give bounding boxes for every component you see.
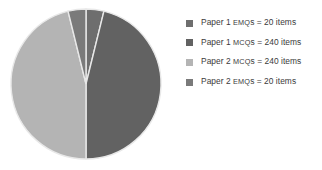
legend-label-suffix: s = 240 items: [251, 37, 302, 47]
legend-label-prefix: Paper 1: [201, 17, 233, 27]
legend-swatch-paper-1-mcqs: [186, 39, 193, 46]
chart-legend: Paper 1 EMQs = 20 items Paper 1 MCQs = 2…: [186, 13, 322, 91]
legend-item-paper-2-emqs[interactable]: Paper 2 EMQs = 20 items: [186, 72, 322, 92]
legend-label-acronym: EMQ: [233, 77, 250, 86]
legend-label-suffix: s = 20 items: [250, 76, 296, 86]
legend-label-prefix: Paper 2: [201, 76, 233, 86]
pie-slice-group: [11, 9, 161, 159]
legend-label-acronym: MCQ: [233, 38, 250, 47]
pie-chart-figure: Paper 1 EMQs = 20 items Paper 1 MCQs = 2…: [0, 0, 322, 170]
legend-swatch-paper-1-emqs: [186, 20, 193, 27]
legend-label-suffix: s = 20 items: [250, 17, 296, 27]
legend-label-paper-1-mcqs: Paper 1 MCQs = 240 items: [201, 37, 301, 48]
legend-label-acronym: EMQ: [233, 18, 250, 27]
pie-svg: [0, 0, 180, 170]
legend-label-paper-2-emqs: Paper 2 EMQs = 20 items: [201, 76, 296, 87]
pie-plot-area: [0, 0, 180, 170]
legend-label-prefix: Paper 2: [201, 56, 233, 66]
legend-item-paper-2-mcqs[interactable]: Paper 2 MCQs = 240 items: [186, 52, 322, 72]
legend-swatch-paper-2-emqs: [186, 79, 193, 86]
legend-label-prefix: Paper 1: [201, 37, 233, 47]
legend-label-suffix: s = 240 items: [251, 56, 302, 66]
legend-item-paper-1-mcqs[interactable]: Paper 1 MCQs = 240 items: [186, 33, 322, 53]
legend-label-acronym: MCQ: [233, 57, 250, 66]
legend-swatch-paper-2-mcqs: [186, 59, 193, 66]
legend-item-paper-1-emqs[interactable]: Paper 1 EMQs = 20 items: [186, 13, 322, 33]
legend-label-paper-2-mcqs: Paper 2 MCQs = 240 items: [201, 56, 301, 67]
legend-label-paper-1-emqs: Paper 1 EMQs = 20 items: [201, 17, 296, 28]
